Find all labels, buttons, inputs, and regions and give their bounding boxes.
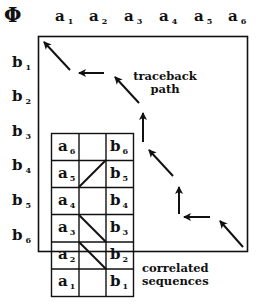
column-label-a1: a1 (55, 9, 73, 24)
row-label-b2: b2 (12, 89, 31, 104)
table-cell-a4: a4 (58, 193, 75, 208)
row-label-b5: b5 (12, 193, 31, 208)
column-label-a3: a3 (124, 9, 142, 24)
traceback-label: traceback path (129, 70, 201, 96)
phi-symbol: Φ (4, 5, 21, 25)
arrow-diagonal-4 (220, 221, 243, 247)
correlated-sequences-label: correlated sequences (142, 262, 209, 288)
table-cell-b1: b1 (110, 274, 128, 289)
arrow-diagonal-3 (149, 150, 173, 176)
traceback-label-line2: path (129, 83, 201, 96)
table-cell-b6: b6 (110, 139, 128, 154)
link-a5-b6 (79, 160, 106, 187)
table-cell-a5: a5 (58, 166, 75, 181)
arrow-diagonal-1 (44, 42, 70, 70)
table-cell-a6: a6 (58, 139, 75, 154)
row-label-b3: b3 (12, 124, 31, 139)
row-label-b1: b1 (12, 55, 31, 70)
correlated-label-line2: sequences (142, 275, 209, 288)
table-cell-b4: b4 (110, 193, 128, 208)
table-cell-b3: b3 (110, 220, 128, 235)
table-cell-b5: b5 (110, 166, 128, 181)
table-cell-a2: a2 (58, 247, 75, 262)
row-label-b6: b6 (12, 228, 31, 243)
column-label-a6: a6 (228, 9, 246, 24)
link-a3-b4 (79, 215, 106, 242)
table-cell-a3: a3 (58, 220, 75, 235)
link-a2-b3 (79, 242, 106, 269)
column-label-a2: a2 (89, 9, 107, 24)
table-cell-a1: a1 (58, 274, 75, 289)
row-label-b4: b4 (12, 158, 31, 173)
column-label-a4: a4 (159, 9, 177, 24)
column-label-a5: a5 (194, 9, 212, 24)
table-cell-b2: b2 (110, 247, 128, 262)
